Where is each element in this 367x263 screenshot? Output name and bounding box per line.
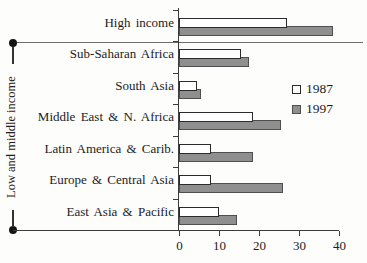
y-tick [173, 167, 178, 168]
y-tick [173, 199, 178, 200]
bar-1987 [179, 112, 253, 122]
category-label: Europe & Central Asia [49, 173, 174, 186]
bar-row: East Asia & Pacific [0, 199, 367, 231]
category-label: Latin America & Carib. [45, 142, 174, 155]
bar-1987 [179, 144, 211, 154]
x-tick-label: 20 [253, 238, 266, 254]
x-tick [339, 231, 340, 236]
y-tick [173, 10, 178, 11]
x-tick-label: 30 [293, 238, 306, 254]
legend-swatch-1987-icon [292, 85, 301, 94]
bar-1987 [179, 207, 219, 217]
x-tick [259, 231, 260, 236]
category-label: East Asia & Pacific [67, 205, 174, 218]
y-tick [173, 230, 178, 231]
bar-row: High income [0, 10, 367, 42]
x-tick [299, 231, 300, 236]
category-label: Middle East & N. Africa [38, 110, 174, 123]
legend-item-1987: 1987 [292, 81, 333, 97]
y-tick [173, 136, 178, 137]
bar-1987 [179, 18, 287, 28]
category-label: Sub-Saharan Africa [70, 47, 174, 60]
x-tick [179, 231, 180, 236]
y-tick [173, 104, 178, 105]
y-tick [173, 41, 178, 42]
bar-row: Sub-Saharan Africa [0, 41, 367, 73]
category-label: High income [104, 16, 174, 29]
x-tick-label: 40 [333, 238, 346, 254]
legend-item-1997: 1997 [292, 101, 333, 117]
bar-1987 [179, 49, 241, 59]
legend-label-1997: 1997 [306, 101, 333, 117]
legend-swatch-1997-icon [292, 105, 301, 114]
bar-row: Latin America & Carib. [0, 136, 367, 168]
bar-1987 [179, 175, 211, 185]
y-tick [173, 73, 178, 74]
category-label: South Asia [115, 79, 174, 92]
legend-label-1987: 1987 [306, 81, 333, 97]
x-tick-label: 10 [213, 238, 226, 254]
legend: 1987 1997 [292, 81, 333, 121]
x-tick [219, 231, 220, 236]
x-tick-label: 0 [176, 238, 183, 254]
bar-row: Europe & Central Asia [0, 167, 367, 199]
bar-1987 [179, 81, 197, 91]
grouped-bar-chart: Low and middle income High income Sub-Sa… [0, 0, 367, 263]
